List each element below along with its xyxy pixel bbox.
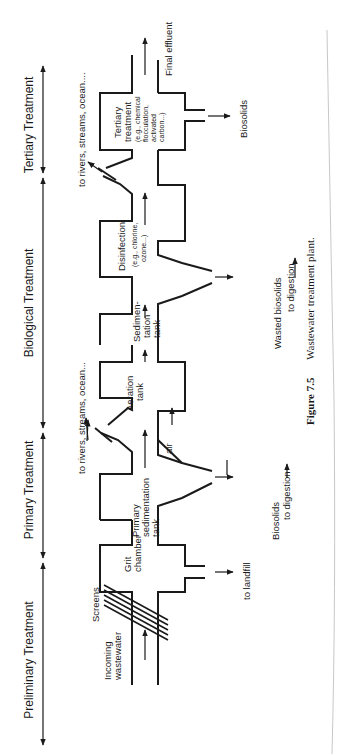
incoming-label-2: wastewater [112, 632, 123, 681]
aeration-label-2: tank [134, 383, 145, 401]
bypass-lines [95, 168, 116, 442]
caption-text: Wastewater treatment plant. [304, 237, 316, 360]
grit-label-2: chamber [132, 535, 143, 572]
tertiary-label-3: (e.g., chemical [134, 96, 142, 142]
air-label: air [163, 443, 174, 454]
disinfection-label-1: Disinfection [116, 222, 127, 271]
wastewater-treatment-diagram: Preliminary Treatment Primary Treatment … [0, 0, 342, 754]
rivers-label-2: to rivers, streams, ocean.... [76, 72, 87, 187]
tertiary-label-6: carbon...) [158, 112, 166, 142]
tertiary-label-5: activated [150, 114, 157, 142]
stage-label-primary: Primary Treatment [22, 440, 36, 539]
primary-label-3: tank [150, 519, 161, 537]
biosolids-primary-label-1: Biosolids [270, 502, 281, 540]
disinfection-label-2: (e.g., chlorine, [131, 223, 139, 267]
screens-label: Screens [90, 587, 101, 622]
stage-label-biological: Biological Treatment [22, 248, 36, 357]
stage-label-preliminary: Preliminary Treatment [22, 601, 36, 719]
right-wall [158, 60, 212, 685]
figure-caption: Figure 7.5 Wastewater treatment plant. [304, 237, 316, 425]
sedimentation-label-3: tank [151, 320, 162, 338]
caption-figure-number: Figure 7.5 [304, 377, 316, 425]
final-effluent-label: Final effluent [163, 21, 174, 76]
stage-label-tertiary: Tertiary Treatment [22, 76, 36, 173]
biosolids-tertiary-label: Biosolids [238, 100, 249, 138]
river-arrow-2 [88, 162, 102, 172]
page-edge [327, 30, 335, 754]
biosolids-primary-label-2: to digestion [281, 471, 292, 520]
wasted-label-2: to digestion [285, 263, 296, 312]
disinfection-label-3: ozone...) [140, 235, 148, 262]
rivers-label-1: to rivers, streams, ocean... [76, 362, 87, 474]
tertiary-label-2: treatment [122, 102, 133, 142]
wasted-label-1: Wasted biosolids [272, 277, 283, 349]
pipe-network [100, 55, 212, 685]
landfill-label: to landfill [241, 563, 252, 601]
tertiary-label-4: flocculation, [142, 105, 149, 142]
